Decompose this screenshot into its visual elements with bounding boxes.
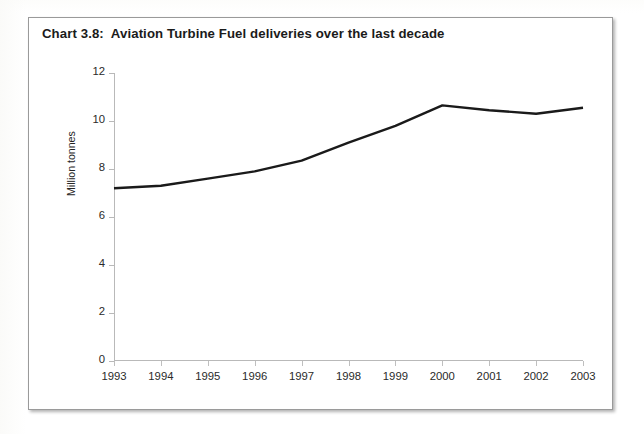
x-axis-tick-label: 2002 — [524, 370, 549, 382]
y-axis-tick-label: 10 — [92, 113, 105, 125]
plot-area: 024681012 199319941995199619971998199920… — [114, 73, 583, 361]
y-axis-tick-label: 2 — [99, 305, 105, 317]
y-axis-title: Million tonnes — [65, 131, 77, 196]
x-axis-tick-label: 2000 — [430, 370, 455, 382]
x-axis-tick-label: 1993 — [101, 370, 126, 382]
x-axis-tick-label: 1996 — [242, 370, 267, 382]
x-axis-tick-label: 1997 — [289, 370, 314, 382]
x-axis-tick-label: 1998 — [336, 370, 361, 382]
y-axis-tick-label: 8 — [99, 161, 105, 173]
x-axis-tick-mark — [161, 361, 162, 366]
data-series-svg — [114, 73, 583, 361]
x-axis-tick-label: 2003 — [570, 370, 595, 382]
line-series-aviation-turbine-fuel — [114, 105, 583, 188]
y-axis-tick-label: 6 — [99, 209, 105, 221]
x-axis-tick-label: 1995 — [195, 370, 220, 382]
x-axis-tick-mark — [114, 361, 115, 366]
x-axis-tick-mark — [395, 361, 396, 366]
chart-title: Chart 3.8: Aviation Turbine Fuel deliver… — [42, 26, 444, 41]
x-axis-tick-mark — [583, 361, 584, 366]
x-axis-tick-mark — [208, 361, 209, 366]
x-axis-tick-mark — [349, 361, 350, 366]
x-axis-tick-mark — [489, 361, 490, 366]
x-axis-tick-mark — [302, 361, 303, 366]
chart-figure-frame: Chart 3.8: Aviation Turbine Fuel deliver… — [28, 17, 613, 410]
x-axis-tick-mark — [536, 361, 537, 366]
y-axis-tick-label: 0 — [99, 353, 105, 365]
y-axis-tick-label: 4 — [99, 257, 105, 269]
x-axis-tick-mark — [442, 361, 443, 366]
y-axis-tick-label: 12 — [92, 65, 105, 77]
x-axis-tick-label: 1994 — [148, 370, 173, 382]
x-axis-tick-label: 1999 — [383, 370, 408, 382]
x-axis-tick-label: 2001 — [477, 370, 502, 382]
x-axis-tick-mark — [255, 361, 256, 366]
